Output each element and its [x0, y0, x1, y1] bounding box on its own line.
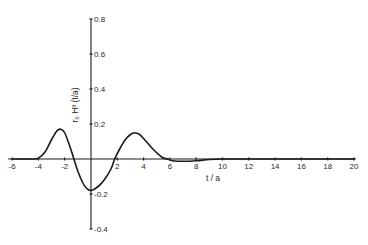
x-tick-label: -6	[9, 162, 17, 171]
y-tick-label: 0.8	[94, 15, 106, 24]
y-tick-label: 0.6	[94, 50, 106, 59]
x-tick-label: 18	[323, 162, 332, 171]
x-tick-label: 8	[194, 162, 199, 171]
y-axis: 0.80.60.40.2-0.2-0.4	[90, 15, 109, 234]
x-tick-label: -4	[35, 162, 43, 171]
data-line	[12, 129, 354, 190]
x-tick-label: -2	[61, 162, 69, 171]
chart-canvas: -6-4-22468101214161820 0.80.60.40.2-0.2-…	[0, 0, 368, 245]
x-tick-label: 16	[297, 162, 306, 171]
x-tick-label: 12	[244, 162, 253, 171]
y-tick-label: 0.4	[94, 85, 106, 94]
x-tick-label: 6	[168, 162, 173, 171]
x-tick-label: 4	[141, 162, 146, 171]
y-tick-label: -0.4	[94, 225, 108, 234]
x-tick-label: 2	[115, 162, 120, 171]
x-tick-label: 14	[271, 162, 280, 171]
x-tick-label: 20	[350, 162, 359, 171]
y-tick-label: 0.2	[94, 120, 106, 129]
y-axis-label: r₀ H³ (t/a)	[70, 87, 80, 122]
y-tick-label: -0.2	[94, 190, 108, 199]
x-tick-label: 10	[218, 162, 227, 171]
x-axis-label: t / a	[206, 173, 220, 183]
